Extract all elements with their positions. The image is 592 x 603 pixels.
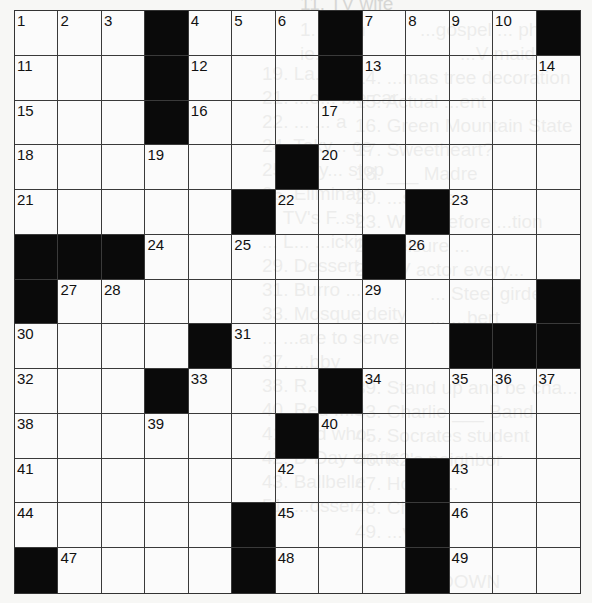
grid-cell[interactable] <box>102 414 145 459</box>
grid-cell[interactable] <box>450 101 493 146</box>
grid-cell[interactable]: 20 <box>319 145 362 190</box>
grid-cell[interactable] <box>319 459 362 504</box>
grid-cell[interactable] <box>58 324 101 369</box>
grid-cell[interactable] <box>450 145 493 190</box>
grid-cell[interactable] <box>406 369 449 414</box>
grid-cell[interactable]: 28 <box>102 280 145 325</box>
grid-cell[interactable] <box>363 503 406 548</box>
grid-cell[interactable] <box>363 145 406 190</box>
grid-cell[interactable] <box>276 280 319 325</box>
grid-cell[interactable] <box>319 280 362 325</box>
grid-cell[interactable] <box>232 369 275 414</box>
grid-cell[interactable]: 6 <box>276 11 319 56</box>
grid-cell[interactable] <box>58 56 101 101</box>
grid-cell[interactable]: 8 <box>406 11 449 56</box>
grid-cell[interactable] <box>102 369 145 414</box>
grid-cell[interactable] <box>189 414 232 459</box>
grid-cell[interactable]: 46 <box>450 503 493 548</box>
grid-cell[interactable]: 43 <box>450 459 493 504</box>
grid-cell[interactable]: 9 <box>450 11 493 56</box>
grid-cell[interactable] <box>189 235 232 280</box>
grid-cell[interactable]: 37 <box>537 369 580 414</box>
grid-cell[interactable] <box>537 414 580 459</box>
grid-cell[interactable]: 23 <box>450 190 493 235</box>
grid-cell[interactable]: 26 <box>406 235 449 280</box>
grid-cell[interactable] <box>145 324 188 369</box>
grid-cell[interactable] <box>58 145 101 190</box>
grid-cell[interactable]: 45 <box>276 503 319 548</box>
grid-cell[interactable]: 19 <box>145 145 188 190</box>
grid-cell[interactable]: 49 <box>450 548 493 593</box>
grid-cell[interactable] <box>537 235 580 280</box>
grid-cell[interactable] <box>58 503 101 548</box>
grid-cell[interactable]: 21 <box>15 190 58 235</box>
grid-cell[interactable] <box>145 190 188 235</box>
grid-cell[interactable] <box>232 56 275 101</box>
grid-cell[interactable] <box>319 548 362 593</box>
grid-cell[interactable] <box>450 280 493 325</box>
grid-cell[interactable] <box>58 101 101 146</box>
grid-cell[interactable] <box>493 459 536 504</box>
grid-cell[interactable]: 38 <box>15 414 58 459</box>
grid-cell[interactable] <box>102 548 145 593</box>
grid-cell[interactable]: 42 <box>276 459 319 504</box>
grid-cell[interactable] <box>537 459 580 504</box>
grid-cell[interactable]: 33 <box>189 369 232 414</box>
grid-cell[interactable] <box>189 145 232 190</box>
grid-cell[interactable]: 7 <box>363 11 406 56</box>
grid-cell[interactable]: 17 <box>319 101 362 146</box>
grid-cell[interactable] <box>232 459 275 504</box>
grid-cell[interactable]: 24 <box>145 235 188 280</box>
grid-cell[interactable] <box>102 190 145 235</box>
grid-cell[interactable]: 34 <box>363 369 406 414</box>
grid-cell[interactable]: 30 <box>15 324 58 369</box>
grid-cell[interactable]: 11 <box>15 56 58 101</box>
grid-cell[interactable] <box>363 101 406 146</box>
grid-cell[interactable] <box>493 101 536 146</box>
grid-cell[interactable]: 31 <box>232 324 275 369</box>
grid-cell[interactable]: 22 <box>276 190 319 235</box>
grid-cell[interactable] <box>145 459 188 504</box>
grid-cell[interactable] <box>406 280 449 325</box>
grid-cell[interactable] <box>363 324 406 369</box>
grid-cell[interactable] <box>189 280 232 325</box>
grid-cell[interactable] <box>319 190 362 235</box>
grid-cell[interactable] <box>493 56 536 101</box>
grid-cell[interactable]: 47 <box>58 548 101 593</box>
grid-cell[interactable] <box>102 56 145 101</box>
grid-cell[interactable] <box>363 459 406 504</box>
grid-cell[interactable] <box>58 414 101 459</box>
grid-cell[interactable]: 48 <box>276 548 319 593</box>
grid-cell[interactable]: 14 <box>537 56 580 101</box>
grid-cell[interactable]: 2 <box>58 11 101 56</box>
grid-cell[interactable]: 5 <box>232 11 275 56</box>
grid-cell[interactable] <box>189 548 232 593</box>
grid-cell[interactable]: 32 <box>15 369 58 414</box>
grid-cell[interactable] <box>232 414 275 459</box>
grid-cell[interactable] <box>537 503 580 548</box>
grid-cell[interactable] <box>145 503 188 548</box>
grid-cell[interactable]: 18 <box>15 145 58 190</box>
grid-cell[interactable] <box>537 101 580 146</box>
grid-cell[interactable] <box>493 145 536 190</box>
grid-cell[interactable] <box>493 280 536 325</box>
grid-cell[interactable] <box>537 190 580 235</box>
grid-cell[interactable] <box>145 548 188 593</box>
grid-cell[interactable] <box>276 235 319 280</box>
grid-cell[interactable]: 10 <box>493 11 536 56</box>
grid-cell[interactable]: 13 <box>363 56 406 101</box>
grid-cell[interactable] <box>232 280 275 325</box>
grid-cell[interactable] <box>406 56 449 101</box>
grid-cell[interactable] <box>363 548 406 593</box>
grid-cell[interactable]: 15 <box>15 101 58 146</box>
grid-cell[interactable] <box>102 503 145 548</box>
grid-cell[interactable]: 25 <box>232 235 275 280</box>
grid-cell[interactable] <box>450 414 493 459</box>
grid-cell[interactable] <box>406 324 449 369</box>
grid-cell[interactable] <box>406 414 449 459</box>
grid-cell[interactable] <box>319 503 362 548</box>
grid-cell[interactable]: 27 <box>58 280 101 325</box>
grid-cell[interactable]: 41 <box>15 459 58 504</box>
grid-cell[interactable]: 29 <box>363 280 406 325</box>
grid-cell[interactable]: 36 <box>493 369 536 414</box>
